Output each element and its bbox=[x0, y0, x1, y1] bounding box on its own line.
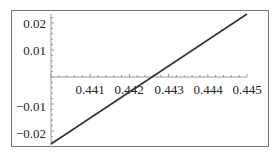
chart: 0.02 0.01 −0.01 −0.02 0.441 0.442 0.443 … bbox=[0, 0, 277, 156]
y-tick-label: −0.01 bbox=[16, 99, 46, 114]
x-tick-label: 0.445 bbox=[232, 82, 261, 97]
data-line bbox=[51, 14, 247, 144]
x-tick-label: 0.441 bbox=[75, 82, 104, 97]
y-tick-label: 0.02 bbox=[23, 16, 46, 31]
x-tick-label: 0.443 bbox=[154, 82, 183, 97]
x-tick-label: 0.442 bbox=[114, 82, 143, 97]
y-tick-label: −0.02 bbox=[16, 126, 46, 141]
x-tick-label: 0.444 bbox=[193, 82, 223, 97]
y-tick-label: 0.01 bbox=[23, 43, 46, 58]
